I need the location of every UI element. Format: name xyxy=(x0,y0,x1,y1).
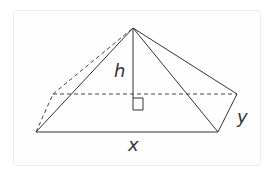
back-right-lateral-edge xyxy=(133,28,237,94)
depth-label: y xyxy=(237,108,248,126)
right-angle-marker xyxy=(133,98,143,110)
height-label: h xyxy=(114,62,125,80)
hidden-edges xyxy=(36,28,237,132)
visible-edges xyxy=(36,28,237,132)
width-label: x xyxy=(128,136,139,154)
left-edge xyxy=(36,94,53,132)
right-edge xyxy=(218,94,237,132)
front-right-lateral-edge xyxy=(133,28,218,132)
